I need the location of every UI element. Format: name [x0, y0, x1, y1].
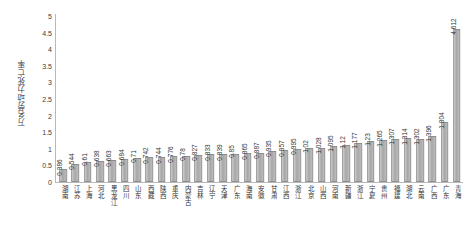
y-axis-tick: 5 — [48, 13, 52, 20]
bar-chart: 万名劳动力死亡率 00.511.522.533.544.55 0.3860.54… — [0, 0, 467, 227]
y-axis-line — [55, 14, 56, 183]
x-axis-category-label: 浙江 — [355, 185, 362, 199]
y-axis-tick: 3.5 — [42, 62, 52, 69]
x-axis-category-label: 海南 — [244, 185, 251, 199]
bar-value-label: 1.12 — [340, 137, 347, 150]
bar[interactable] — [342, 145, 350, 182]
x-axis-category-label: 广东 — [232, 185, 239, 199]
bar[interactable] — [453, 29, 461, 182]
bar-group: 1.095 — [328, 16, 340, 182]
bar-value-label: 0.827 — [192, 144, 199, 160]
bar-value-label: 1.804 — [438, 112, 445, 128]
y-axis-tick: 1 — [48, 145, 52, 152]
x-axis-category-label: 广西 — [429, 185, 436, 199]
bar-value-label: 0.995 — [290, 139, 297, 155]
x-axis-category-label: 江西 — [281, 185, 288, 199]
bar-value-label: 1.095 — [327, 136, 334, 152]
bar-value-label: 0.887 — [253, 142, 260, 158]
x-axis-category-label: 福建 — [392, 185, 399, 199]
bar-group: 1.314 — [401, 16, 413, 182]
bar-group: 1.804 — [438, 16, 450, 182]
x-axis-category-label: 广东 — [441, 185, 448, 199]
x-axis-category-label: 重庆 — [170, 185, 177, 199]
y-axis-tick: 2.5 — [42, 96, 52, 103]
x-axis-category-label: 河北 — [97, 185, 104, 199]
x-axis-category-label: 上海 — [84, 185, 91, 199]
bar[interactable] — [355, 143, 363, 182]
x-axis-category-label: 江苏 — [72, 185, 79, 199]
x-axis-category-label: 山东 — [134, 185, 141, 199]
bar-group: 1.265 — [377, 16, 389, 182]
y-axis-tick: 4 — [48, 46, 52, 53]
x-axis-category-label: 辽宁 — [207, 185, 214, 199]
x-axis-category-label: 陕西 — [158, 185, 165, 199]
bar-value-label: 0.61 — [81, 153, 88, 166]
x-axis-category-label: 宁夏 — [367, 185, 374, 199]
x-axis-category-label: 黑龙江 — [109, 185, 116, 206]
bar-value-label: 1.302 — [413, 129, 420, 145]
y-axis-title-label: 万名劳动力死亡率 — [18, 60, 26, 126]
bar[interactable] — [232, 154, 240, 182]
bar-value-label: 0.78 — [180, 148, 187, 161]
bar[interactable] — [428, 136, 436, 182]
y-axis-tick: 3 — [48, 79, 52, 86]
bar-value-label: 1.307 — [389, 128, 396, 144]
bar-value-label: 1.028 — [315, 138, 322, 154]
bar-value-label: 0.638 — [94, 151, 101, 167]
x-axis-category-label: 北京 — [306, 185, 313, 199]
bar-group: 1.02 — [303, 16, 315, 182]
bar-value-label: 0.71 — [130, 150, 137, 163]
bar-value-label: 0.744 — [155, 147, 162, 163]
x-axis-category-label: 内蒙古 — [183, 185, 190, 206]
bar-group: 0.995 — [291, 16, 303, 182]
x-axis-category-label: 湖北 — [404, 185, 411, 199]
bar-group: 1.396 — [426, 16, 438, 182]
x-axis-category-label: 四川 — [121, 185, 128, 199]
bar-value-label: 0.742 — [143, 147, 150, 163]
x-axis-category-label: 青海 — [453, 185, 460, 199]
x-axis-category-labels: 湖南江苏上海河北黑龙江四川山东西藏陕西重庆内蒙古吉林辽宁天津广东海南安徽甘肃江西… — [57, 185, 463, 227]
plot-area: 0.3860.5440.610.6380.6630.6840.710.7420.… — [57, 16, 463, 182]
bar[interactable] — [392, 139, 400, 182]
bar-value-label: 0.833 — [204, 144, 211, 160]
bar-value-label: 0.957 — [278, 140, 285, 156]
bar-value-label: 0.663 — [106, 150, 113, 166]
x-axis-category-label: 甘肃 — [269, 185, 276, 199]
bar-value-label: 0.935 — [266, 141, 273, 157]
bar[interactable] — [404, 138, 412, 182]
x-axis-category-label: 贵州 — [380, 185, 387, 199]
x-axis-category-label: 浙江 — [294, 185, 301, 199]
bar-group: 1.302 — [414, 16, 426, 182]
bar-group: 1.12 — [340, 16, 352, 182]
y-axis-title: 万名劳动力死亡率 — [14, 0, 30, 186]
bar[interactable] — [367, 141, 375, 182]
bar[interactable] — [416, 139, 424, 182]
bar-value-label: 1.23 — [364, 133, 371, 146]
x-axis-category-label: 安徽 — [257, 185, 264, 199]
bar-group: 1.177 — [352, 16, 364, 182]
bar-value-label: 4.612 — [450, 19, 457, 35]
x-axis-category-label: 天津 — [220, 185, 227, 199]
y-axis-tick-labels: 00.511.522.533.544.55 — [30, 16, 54, 182]
bar-value-label: 1.314 — [401, 128, 408, 144]
bar-group: 0.935 — [266, 16, 278, 182]
bar-value-label: 0.839 — [217, 144, 224, 160]
bar-value-label: 0.85 — [229, 145, 236, 158]
x-axis-category-label: 吉林 — [195, 185, 202, 199]
x-axis-line — [55, 182, 463, 183]
bar-group: 0.957 — [278, 16, 290, 182]
y-axis-tick: 2 — [48, 112, 52, 119]
x-axis-category-label: 湖南 — [60, 185, 67, 199]
bar-group: 1.307 — [389, 16, 401, 182]
bar-value-label: 1.177 — [352, 133, 359, 149]
bar[interactable] — [441, 122, 449, 182]
x-axis-category-label: 河南 — [330, 185, 337, 199]
bar-value-label: 1.265 — [377, 130, 384, 146]
x-axis-category-label: 新疆 — [343, 185, 350, 199]
bar-value-label: 0.386 — [57, 159, 64, 175]
x-axis-category-label: 西藏 — [146, 185, 153, 199]
bar-value-label: 1.396 — [426, 126, 433, 142]
bar-value-label: 0.544 — [69, 154, 76, 170]
bar[interactable] — [305, 148, 313, 182]
y-axis-tick: 0.5 — [42, 162, 52, 169]
